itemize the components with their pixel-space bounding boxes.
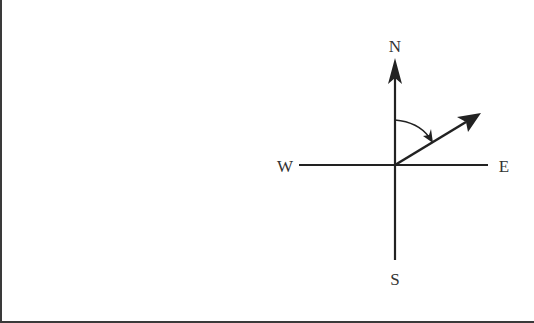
east-label: E — [499, 158, 509, 175]
bearing-arrowhead-icon — [457, 113, 481, 132]
west-label: W — [277, 158, 293, 175]
bearing-vector-shaft — [395, 122, 466, 165]
angle-arc — [395, 120, 429, 137]
compass-diagram — [0, 0, 534, 323]
south-label: S — [390, 271, 399, 288]
north-label: N — [389, 38, 401, 55]
